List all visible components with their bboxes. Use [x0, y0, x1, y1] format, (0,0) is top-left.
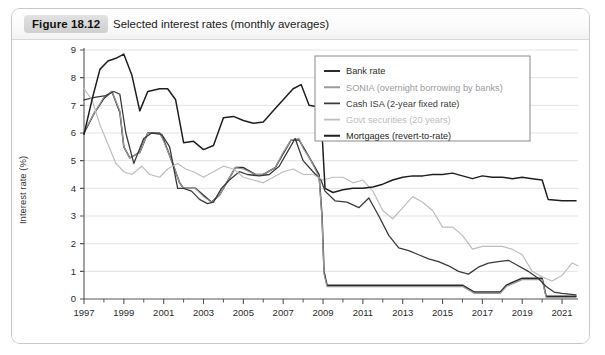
x-tick-label: 2021: [551, 307, 572, 318]
figure-caption-bar: Figure 18.12 Selected interest rates (mo…: [12, 9, 589, 40]
x-tick-label: 2009: [312, 307, 333, 318]
y-tick-label: 8: [71, 72, 76, 83]
x-tick-label: 2007: [273, 307, 294, 318]
y-tick-label: 5: [71, 155, 76, 166]
y-tick-label: 6: [71, 127, 76, 138]
y-tick-label: 0: [71, 293, 76, 304]
legend-label: Govt securities (20 years): [346, 115, 451, 125]
legend-label: Mortgages (revert-to-rate): [346, 131, 451, 141]
x-tick-label: 2019: [512, 307, 533, 318]
y-tick-label: 4: [71, 183, 76, 194]
figure-caption-text: Selected interest rates (monthly average…: [113, 15, 329, 33]
figure-number-badge: Figure 18.12: [24, 15, 108, 33]
x-tick-label: 2017: [472, 307, 493, 318]
x-tick-label: 2015: [432, 307, 453, 318]
x-tick-label: 2005: [233, 307, 254, 318]
y-tick-label: 3: [71, 210, 76, 221]
interest-rates-line-chart: 0123456789 19971999200120032005200720092…: [12, 40, 589, 344]
x-tick-label: 2011: [353, 307, 373, 318]
chart-plot-area: 0123456789 19971999200120032005200720092…: [12, 40, 589, 344]
figure-card: Figure 18.12 Selected interest rates (mo…: [11, 8, 590, 344]
x-tick-label: 1999: [113, 307, 134, 318]
legend-label: Cash ISA (2-year fixed rate): [346, 99, 459, 109]
y-axis-ticks: 0123456789: [71, 44, 84, 304]
x-tick-label: 1997: [73, 307, 94, 318]
legend-label: SONIA (overnight borrowing by banks): [346, 83, 503, 93]
y-tick-label: 7: [71, 100, 76, 111]
x-axis-ticks: 1997199920012003200520072009201120132015…: [73, 299, 572, 318]
legend-label: Bank rate: [346, 66, 385, 76]
y-tick-label: 2: [71, 238, 76, 249]
x-tick-label: 2003: [193, 307, 214, 318]
x-tick-label: 2001: [153, 307, 174, 318]
y-tick-label: 1: [71, 266, 76, 277]
chart-legend: Bank rateSONIA (overnight borrowing by b…: [315, 56, 530, 141]
y-tick-label: 9: [71, 44, 76, 55]
x-tick-label: 2013: [392, 307, 413, 318]
y-axis-title: Interest rate (%): [17, 156, 28, 224]
